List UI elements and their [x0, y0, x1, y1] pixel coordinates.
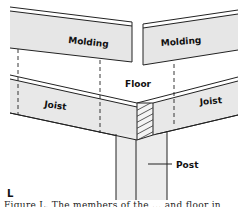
panel-letter: L — [7, 188, 14, 199]
framing-diagram: Molding Molding Floor Joist Joist — [0, 0, 238, 207]
floor-label: Floor — [125, 79, 152, 89]
figure-caption: Figure L. The members of the ... and flo… — [4, 200, 221, 207]
post-label: Post — [176, 160, 199, 170]
post — [116, 131, 167, 200]
joist-right-label: Joist — [198, 95, 223, 107]
joist-left — [10, 75, 137, 140]
